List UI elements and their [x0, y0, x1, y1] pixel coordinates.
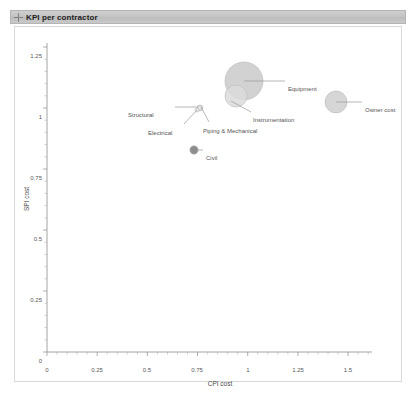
y-axis-ticks [43, 47, 47, 352]
x-tick-label-0.5: 0.5 [143, 367, 151, 373]
app-root: KPI per contractor [0, 0, 416, 398]
x-tick-label-1.5: 1.5 [344, 367, 352, 373]
point-label-structural: Structural [128, 112, 154, 118]
x-tick-label-0.25: 0.25 [91, 367, 103, 373]
x-axis-ticks [47, 352, 348, 356]
scatter-plot [0, 0, 416, 398]
x-tick-label-1.25: 1.25 [292, 367, 304, 373]
y-tick-label-0.5: 0.5 [34, 236, 42, 242]
x-axis-title: CPI cost [208, 380, 233, 387]
point-label-civil: Civil [206, 155, 217, 161]
x-tick-label-0: 0 [45, 367, 48, 373]
point-label-owner-cost: Owner cost [365, 107, 395, 113]
point-label-instrumentation: Instrumentation [253, 117, 294, 123]
bubble-civil [190, 146, 198, 154]
point-label-piping-mechanical: Piping & Mechanical [203, 128, 257, 134]
y-tick-label-1: 1 [39, 114, 42, 120]
point-label-electrical: Electrical [148, 130, 172, 136]
leader-electrical [184, 110, 197, 124]
y-axis-title: SPI cost [23, 187, 30, 211]
y-tick-label-1.25: 1.25 [30, 53, 42, 59]
y-tick-label-0.25: 0.25 [30, 297, 42, 303]
point-label-equipment: Equipment [288, 86, 317, 92]
